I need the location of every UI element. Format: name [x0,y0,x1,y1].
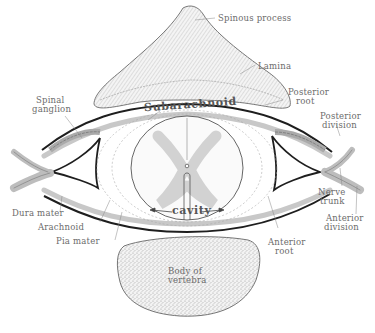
label-posterior-root-2: root [296,97,315,106]
label-nerve-trunk-2: trunk [320,197,345,206]
label-cavity: cavity [172,206,211,215]
spinal-cord-diagram: Spinous process Lamina Spinal ganglion P… [0,0,375,333]
label-pia-mater: Pia mater [56,237,100,246]
label-spinal-ganglion-2: ganglion [32,105,71,114]
label-body-of-vertebra-2: vertebra [168,276,207,285]
label-anterior-root-2: root [275,247,294,256]
label-anterior-division-2: division [324,223,359,232]
label-lamina: Lamina [258,62,291,71]
label-posterior-division-2: division [322,121,357,130]
label-spinous-process: Spinous process [218,14,291,23]
label-arachnoid: Arachnoid [38,223,84,232]
label-dura-mater: Dura mater [12,209,64,218]
